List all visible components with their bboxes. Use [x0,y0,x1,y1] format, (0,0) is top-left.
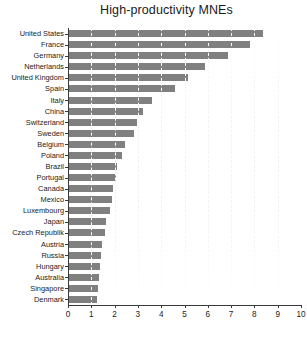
y-axis-tick [65,45,68,46]
x-axis-label: 10 [291,310,307,319]
y-axis-tick [65,144,68,145]
x-axis-label: 2 [105,310,125,319]
y-axis-label: France [1,40,64,49]
y-axis-label: Canada [1,184,64,193]
bar [68,41,250,48]
y-axis-label: Japan [1,217,64,226]
bar [68,241,102,248]
y-axis-tick [65,111,68,112]
x-axis-tick [208,305,209,308]
y-axis-label: Czech Republik [1,228,64,237]
y-axis-label: Germany [1,51,64,60]
bar [68,97,152,104]
x-axis-label: 6 [198,310,218,319]
chart-title-text: High-productivity MNEs [100,3,233,17]
y-axis-tick [65,178,68,179]
x-axis-label: 9 [268,310,288,319]
bar [68,296,97,303]
y-axis-label: Australia [1,273,64,282]
gridline [301,28,302,305]
y-axis-label: United Kingdom [1,73,64,82]
bar [68,263,100,270]
y-axis-tick [65,299,68,300]
y-axis-label: Switzerland [1,118,64,127]
y-axis-tick [65,255,68,256]
bar [68,163,117,170]
y-axis-tick [65,78,68,79]
gridline [278,28,279,305]
y-axis-label: Singapore [1,284,64,293]
y-axis-label: Sweden [1,129,64,138]
y-axis-label: Denmark [1,295,64,304]
y-axis-label: Belgium [1,140,64,149]
y-axis-label: Mexico [1,195,64,204]
bar [68,30,263,37]
y-axis-tick [65,277,68,278]
x-axis-tick [301,305,302,308]
bars-layer [68,28,301,305]
bar [68,85,175,92]
y-axis-label: Hungary [1,262,64,271]
x-axis-label: 7 [221,310,241,319]
x-axis-tick [278,305,279,308]
x-axis-tick [138,305,139,308]
bar [68,63,205,70]
y-axis-tick [65,167,68,168]
x-axis-tick [91,305,92,308]
y-axis-spine [68,28,69,306]
y-axis-label: Portugal [1,173,64,182]
y-axis-label: Luxembourg [1,206,64,215]
plot-area [68,28,301,305]
chart-container: High-productivity MNEs United StatesFran… [0,0,307,348]
y-axis-tick [65,200,68,201]
y-axis-tick [65,244,68,245]
y-axis-label: Poland [1,151,64,160]
bar [68,119,137,126]
bar [68,252,101,259]
bar [68,174,116,181]
bar [68,274,99,281]
y-axis-tick [65,211,68,212]
x-axis-tick [161,305,162,308]
y-axis-label: Brazil [1,162,64,171]
gridline [208,28,209,305]
y-axis-label: Italy [1,96,64,105]
bar [68,218,106,225]
gridline [254,28,255,305]
x-axis-label: 4 [151,310,171,319]
bar [68,130,134,137]
y-axis-tick [65,34,68,35]
y-axis-label: China [1,107,64,116]
y-axis-tick [65,56,68,57]
y-axis-tick [65,266,68,267]
y-axis-label: Netherlands [1,62,64,71]
x-axis-label: 8 [244,310,264,319]
y-axis-tick [65,67,68,68]
bar [68,196,112,203]
y-axis-tick [65,122,68,123]
x-axis-label: 3 [128,310,148,319]
y-axis-label: Spain [1,84,64,93]
bar [68,285,98,292]
bar [68,141,125,148]
y-axis-label: United States [1,29,64,38]
y-axis-tick [65,189,68,190]
bar [68,152,122,159]
bar [68,74,188,81]
y-axis-labels: United StatesFranceGermanyNetherlandsUni… [0,0,64,348]
y-axis-tick [65,133,68,134]
x-axis-label: 5 [175,310,195,319]
y-axis-tick [65,288,68,289]
y-axis-label: Russia [1,251,64,260]
bar [68,229,105,236]
bar [68,108,143,115]
bar [68,52,228,59]
x-axis-label: 1 [81,310,101,319]
x-axis-label: 0 [58,310,78,319]
y-axis-tick [65,233,68,234]
bar [68,207,110,214]
x-axis-tick [115,305,116,308]
bar [68,185,113,192]
x-axis-tick [254,305,255,308]
x-axis-tick [68,305,69,308]
